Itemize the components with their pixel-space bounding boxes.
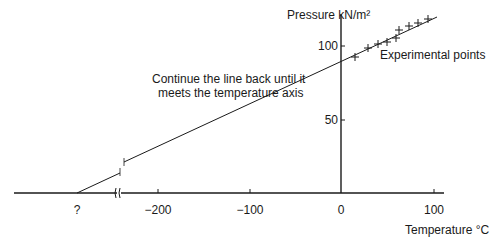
annotation-line2: meets the temperature axis	[158, 86, 303, 100]
x-tick-label-unknown: ?	[74, 203, 81, 217]
annotation-line1: Continue the line back until it	[152, 72, 305, 86]
x-tick-label-minus100: −100	[236, 203, 263, 217]
x-tick-label-100: 100	[424, 203, 444, 217]
x-axis-title: Temperature °C	[405, 223, 489, 237]
fit-line-extrapolated	[77, 173, 120, 193]
experimental-points-label: Experimental points	[380, 48, 485, 62]
x-tick-label-0: 0	[338, 203, 345, 217]
x-tick-label-minus200: −200	[144, 203, 171, 217]
y-tick-label-100: 100	[312, 39, 338, 53]
y-tick-label-50: 50	[312, 113, 338, 127]
y-axis-title: Pressure kN/m²	[287, 8, 370, 22]
